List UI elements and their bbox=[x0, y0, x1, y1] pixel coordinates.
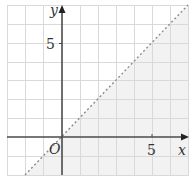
y-tick-label-5: 5 bbox=[46, 36, 55, 52]
x-axis-label: x bbox=[178, 142, 186, 158]
y-axis-arrow-icon bbox=[59, 5, 66, 13]
x-tick-label-5: 5 bbox=[147, 142, 156, 158]
origin-label: O bbox=[49, 141, 61, 157]
coordinate-plot: y x O 5 5 bbox=[0, 0, 189, 178]
y-axis-label: y bbox=[49, 2, 59, 18]
